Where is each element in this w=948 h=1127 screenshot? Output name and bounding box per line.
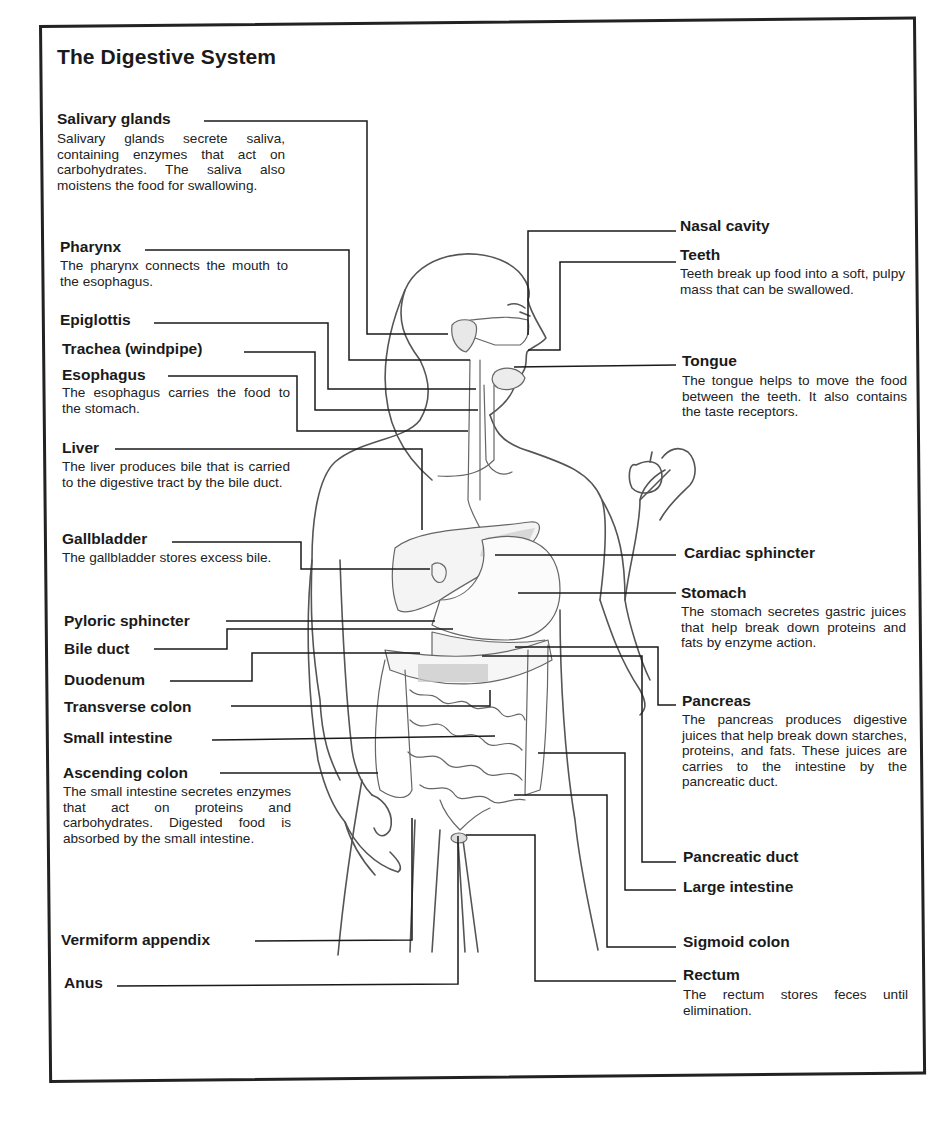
label-small-intestine: Small intestine (63, 729, 172, 747)
label-teeth: Teeth (680, 246, 720, 264)
desc-salivary-glands: Salivary glands secrete saliva, containi… (57, 131, 285, 193)
leader-small-intestine (212, 736, 495, 740)
desc-rectum: The rectum stores feces until eliminatio… (683, 987, 908, 1018)
desc-liver: The liver produces bile that is carried … (62, 459, 290, 490)
desc-esophagus: The esophagus carries the food to the st… (62, 385, 290, 416)
label-stomach: Stomach (681, 584, 746, 602)
leader-rectum (466, 835, 676, 981)
desc-stomach: The stomach secretes gastric juices that… (681, 604, 906, 651)
label-esophagus: Esophagus (62, 366, 146, 384)
label-ascending-colon: Ascending colon (63, 764, 188, 782)
leader-anus (117, 836, 458, 986)
label-epiglottis: Epiglottis (60, 311, 131, 329)
desc-gallbladder: The gallbladder stores excess bile. (62, 550, 290, 566)
label-duodenum: Duodenum (64, 671, 145, 689)
desc-tongue: The tongue helps to move the food betwee… (682, 373, 907, 420)
label-bile-duct: Bile duct (64, 640, 129, 658)
label-large-intestine: Large intestine (683, 878, 793, 896)
label-cardiac-sphincter: Cardiac sphincter (684, 544, 815, 562)
label-pyloric-sphincter: Pyloric sphincter (64, 612, 190, 630)
label-anus: Anus (64, 974, 103, 992)
label-transverse-colon: Transverse colon (64, 698, 192, 716)
label-nasal-cavity: Nasal cavity (680, 217, 770, 235)
leader-bile-duct (154, 629, 453, 649)
label-liver: Liver (62, 439, 99, 457)
label-pancreatic-duct: Pancreatic duct (683, 848, 798, 866)
label-vermiform-appendix: Vermiform appendix (61, 931, 210, 949)
leader-pancreatic-duct (482, 656, 676, 862)
desc-pharynx: The pharynx connects the mouth to the es… (60, 258, 288, 289)
leader-duodenum (170, 653, 420, 681)
label-gallbladder: Gallbladder (62, 530, 147, 548)
desc-pancreas: The pancreas produces digestive juices t… (682, 712, 907, 790)
desc-teeth: Teeth break up food into a soft, pulpy m… (680, 266, 905, 297)
label-rectum: Rectum (683, 966, 740, 984)
leader-nasal-cavity (528, 231, 676, 335)
label-trachea: Trachea (windpipe) (62, 340, 202, 358)
label-tongue: Tongue (682, 352, 737, 370)
label-salivary-glands: Salivary glands (57, 110, 171, 128)
label-pharynx: Pharynx (60, 238, 121, 256)
diagram-title: The Digestive System (57, 45, 276, 69)
leader-sigmoid-colon (514, 795, 676, 947)
label-sigmoid-colon: Sigmoid colon (683, 933, 790, 951)
leader-teeth (528, 262, 676, 350)
label-pancreas: Pancreas (682, 692, 751, 710)
leader-transverse-colon (231, 690, 490, 706)
desc-ascending-colon: The small intestine secretes enzymes tha… (63, 784, 291, 846)
leader-tongue (514, 365, 676, 367)
